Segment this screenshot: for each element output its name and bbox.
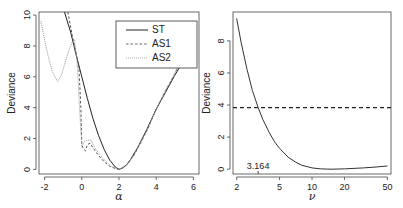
right-x-axis-label: ν (309, 190, 316, 203)
figure: -20246 0246810 Deviance α ST AS1 AS2 251… (0, 0, 403, 208)
left-x-axis-label: α (115, 190, 123, 203)
right-x-tick-label: 2 (234, 182, 239, 192)
right-y-tick-label: 2 (216, 135, 226, 140)
right-y-tick-label: 6 (216, 70, 226, 75)
right-panel: 25102050 02468 3.164 Deviance ν (201, 12, 392, 203)
annotation-label: 3.164 (247, 161, 270, 171)
right-y-axis-label: Deviance (201, 72, 212, 114)
right-y-tick-label: 8 (216, 38, 226, 43)
right-plot-frame (233, 12, 391, 174)
left-y-tick-label: 6 (22, 74, 32, 79)
left-y-tick-label: 8 (22, 43, 32, 48)
right-x-tick-label: 20 (339, 182, 349, 192)
legend-label-as1: AS1 (152, 38, 171, 49)
left-x-tick-label: 0 (79, 182, 84, 192)
right-y-tick-label: 0 (216, 167, 226, 172)
left-y-axis: 0246810 (22, 10, 36, 172)
left-x-tick-label: 6 (191, 182, 196, 192)
right-x-tick-label: 50 (382, 182, 392, 192)
left-y-tick-label: 10 (22, 10, 32, 20)
legend-label-as2: AS2 (152, 52, 171, 63)
legend: ST AS1 AS2 (116, 21, 197, 68)
right-y-axis: 02468 (216, 38, 230, 171)
series-line-deviance (237, 18, 388, 169)
left-x-tick-label: 4 (154, 182, 159, 192)
left-y-tick-label: 4 (22, 105, 32, 110)
left-y-tick-label: 2 (22, 136, 32, 141)
left-panel: -20246 0246810 Deviance α ST AS1 AS2 (6, 10, 199, 203)
legend-label-st: ST (152, 24, 165, 35)
right-series-group (237, 18, 388, 169)
left-y-axis-label: Deviance (6, 72, 17, 114)
left-x-tick-label: -2 (41, 182, 49, 192)
right-y-tick-label: 4 (216, 103, 226, 108)
left-y-tick-label: 0 (22, 167, 32, 172)
right-x-tick-label: 5 (277, 182, 282, 192)
